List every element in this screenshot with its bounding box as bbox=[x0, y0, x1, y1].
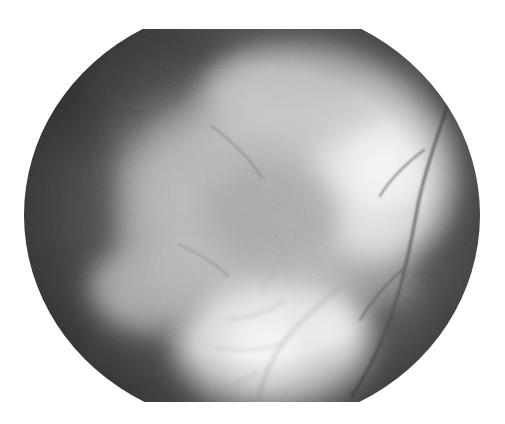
screenshot-root bbox=[0, 0, 505, 424]
fundus-figure bbox=[0, 0, 505, 424]
fundus-image bbox=[0, 0, 505, 424]
